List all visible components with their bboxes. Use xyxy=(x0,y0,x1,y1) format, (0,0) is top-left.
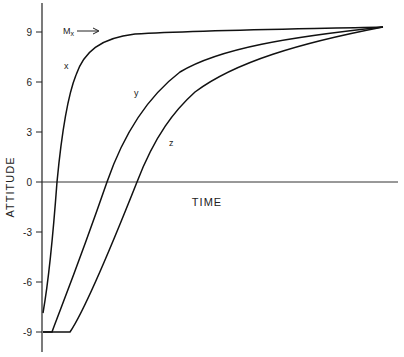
curve-z xyxy=(43,27,383,332)
y-axis-title: ATTITUDE xyxy=(4,157,16,218)
tick-label-neg3: -3 xyxy=(23,227,32,238)
mx-label: Mx xyxy=(63,26,75,37)
curve-y-label: y xyxy=(134,88,139,98)
curve-x xyxy=(43,27,383,313)
tick-label-neg9: -9 xyxy=(23,327,32,338)
tick-label-neg6: -6 xyxy=(23,277,32,288)
y-ticks xyxy=(36,32,42,332)
tick-label-9: 9 xyxy=(26,27,32,38)
curve-x-label: x xyxy=(64,61,69,71)
mx-annotation: Mx xyxy=(63,26,99,37)
x-axis-title: TIME xyxy=(192,196,222,208)
y-tick-labels: 9 6 3 0 -3 -6 -9 xyxy=(23,27,32,338)
tick-label-0: 0 xyxy=(26,177,32,188)
curve-z-label: z xyxy=(169,138,174,148)
attitude-time-chart: 9 6 3 0 -3 -6 -9 ATTITUDE TIME Mx x y z xyxy=(0,0,404,357)
tick-label-3: 3 xyxy=(26,127,32,138)
tick-label-6: 6 xyxy=(26,77,32,88)
